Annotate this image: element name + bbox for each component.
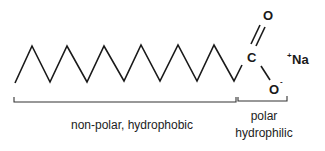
hydrocarbon-chain <box>15 45 242 83</box>
polar-bracket <box>238 96 287 101</box>
negative-charge: - <box>280 77 283 86</box>
carbonyl-oxygen-atom: O <box>263 8 273 23</box>
anion-oxygen-atom: O <box>269 82 279 97</box>
polar-label: polar <box>251 109 278 123</box>
nonpolar-label: non-polar, hydrophobic <box>71 118 193 132</box>
carbon-atom: C <box>247 50 257 65</box>
hydrophilic-label: hydrophilic <box>235 126 292 140</box>
soap-molecule-diagram: C O O - + Na non-polar, hydrophobic pola… <box>0 0 325 151</box>
nonpolar-bracket <box>14 97 236 102</box>
single-bond <box>261 66 270 80</box>
carboxylate-group: C O O - + Na <box>247 8 309 97</box>
sodium-ion: Na <box>292 52 309 67</box>
